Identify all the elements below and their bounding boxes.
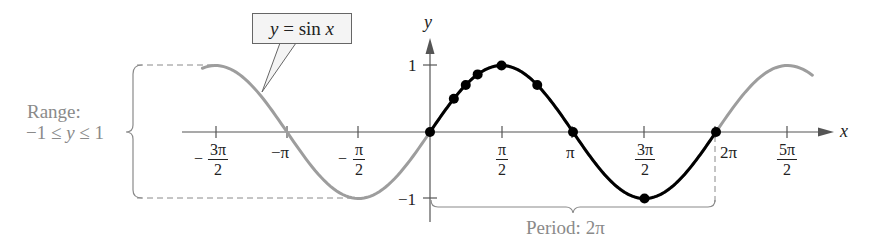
sine-chart bbox=[0, 0, 873, 246]
data-point bbox=[711, 127, 721, 137]
data-point bbox=[461, 80, 471, 90]
x-axis bbox=[182, 128, 834, 137]
period-brace bbox=[431, 200, 715, 213]
tick-label-2pi: 2π bbox=[720, 144, 737, 161]
range-label-line2: −1 ≤ y ≤ 1 bbox=[26, 123, 104, 142]
tick-label-pi-2: π 2 bbox=[496, 142, 508, 178]
data-point bbox=[425, 127, 435, 137]
callout-eq: = sin bbox=[278, 18, 325, 40]
x-axis-label: x bbox=[840, 122, 848, 140]
tick-label-neg-3pi-2: 3π 2 bbox=[208, 142, 228, 178]
tick-label-neg-pi: −π bbox=[271, 144, 289, 161]
tick-label-5pi-2: 5π 2 bbox=[777, 142, 797, 178]
tick-label-neg-pi-2: π 2 bbox=[353, 142, 365, 178]
data-point bbox=[640, 194, 650, 204]
y-tick-label-1: 1 bbox=[408, 57, 417, 74]
callout-pointer bbox=[262, 43, 296, 92]
tick-neg-pi-2-minus: − bbox=[338, 150, 347, 168]
data-point bbox=[532, 80, 542, 90]
data-point bbox=[449, 94, 459, 104]
data-point bbox=[568, 127, 578, 137]
callout-x: x bbox=[326, 18, 334, 40]
tick-neg-3pi-2-minus: − bbox=[194, 150, 203, 168]
callout-y: y bbox=[270, 18, 278, 40]
tick-label-3pi-2: 3π 2 bbox=[635, 142, 655, 178]
function-callout: y = sin x bbox=[252, 13, 352, 44]
range-label-line1: Range: bbox=[27, 102, 81, 121]
tick-label-pi: π bbox=[566, 144, 575, 161]
range-brace bbox=[126, 65, 142, 198]
data-point bbox=[473, 69, 483, 79]
y-axis-label: y bbox=[424, 13, 432, 31]
period-label: Period: 2π bbox=[526, 218, 605, 237]
data-point bbox=[497, 61, 507, 71]
y-tick-label-neg1: −1 bbox=[398, 191, 416, 208]
